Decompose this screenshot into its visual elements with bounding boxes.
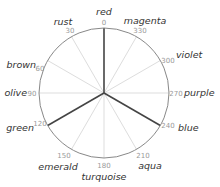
spoke-60: [48, 61, 104, 94]
deg-label-30: 30: [66, 27, 75, 35]
deg-label-90: 90: [28, 90, 37, 98]
spoke-330: [104, 37, 137, 93]
hue-name-purple: purple: [183, 87, 215, 98]
spoke-150: [72, 93, 105, 149]
deg-label-240: 240: [161, 122, 174, 130]
hue-name-rust: rust: [54, 16, 74, 27]
spoke-210: [104, 93, 137, 149]
deg-label-270: 270: [169, 90, 182, 98]
deg-label-300: 300: [161, 57, 174, 65]
hue-name-magenta: magenta: [124, 15, 167, 26]
deg-label-210: 210: [136, 152, 149, 160]
spoke-120-highlight: [48, 93, 104, 126]
hue-name-emerald: emerald: [38, 161, 78, 172]
deg-label-330: 330: [133, 27, 146, 35]
hue-name-green: green: [6, 122, 34, 133]
spoke-240-highlight: [104, 93, 160, 126]
deg-label-180: 180: [97, 162, 110, 170]
hue-name-turquoise: turquoise: [82, 171, 127, 182]
hue-wheel-diagram: 0 30 60 90 120 150 180 210 240 270 300 3…: [0, 0, 220, 187]
spokes: [39, 28, 169, 158]
hue-name-violet: violet: [176, 49, 204, 60]
deg-label-0: 0: [102, 19, 106, 27]
hue-name-brown: brown: [6, 59, 36, 70]
deg-label-60: 60: [36, 65, 45, 73]
spoke-300: [104, 61, 160, 94]
deg-label-150: 150: [57, 152, 70, 160]
deg-label-120: 120: [33, 120, 46, 128]
hue-name-red: red: [96, 6, 113, 17]
hue-name-aqua: aqua: [138, 160, 162, 171]
hue-name-blue: blue: [178, 122, 199, 133]
hue-name-olive: olive: [4, 87, 27, 98]
spoke-30: [72, 37, 105, 93]
